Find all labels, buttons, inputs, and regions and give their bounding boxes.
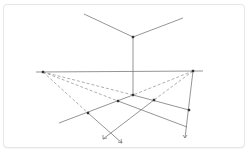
dashed-vp-left-center [43,72,133,95]
perspective-diagram [0,0,249,156]
horizon-line [36,71,203,72]
grid-line-b-arrow [103,100,154,139]
point-vp-right [192,70,194,72]
dashed-vp-left-d [43,72,88,113]
dashed-vp-right-center [133,71,193,95]
dashed-vp-left-a [43,72,118,101]
point-vp-left [42,71,44,73]
dashed-vp-right-b [154,71,193,100]
point-center [132,94,134,96]
point-top-vertex [132,36,134,38]
point-b [153,99,155,101]
grid-line-a-f [118,101,187,127]
grid-line-right [133,95,189,110]
point-a [117,100,119,102]
grid-line-left [59,95,133,123]
grid-line-right-vertical [185,71,193,138]
top-left-line [84,14,133,37]
top-right-line [133,18,183,37]
point-d [87,112,89,114]
point-e [188,109,190,111]
